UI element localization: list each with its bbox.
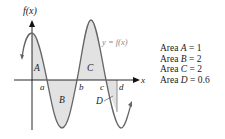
region-label-a: A [33, 63, 40, 73]
curve-label: y = f(x) [101, 37, 128, 47]
region-label-d: D [95, 96, 103, 106]
x-axis-arrow-icon [133, 77, 140, 83]
region-label-b: B [59, 95, 65, 105]
area-legend: Area A = 1 Area B = 2 Area C = 2 Area D … [160, 43, 210, 85]
legend-row-a: Area A = 1 [160, 43, 210, 54]
region-label-c: C [87, 63, 94, 73]
y-axis-arrow-icon [29, 20, 35, 27]
y-axis-label: f(x) [23, 5, 38, 17]
function-graph: f(x) x y = f(x) a b c d A B C D [0, 0, 150, 139]
tick-label-c: c [100, 82, 104, 92]
legend-row-c: Area C = 2 [160, 64, 210, 75]
x-axis-label: x [140, 75, 145, 85]
legend-row-b: Area B = 2 [160, 54, 210, 65]
legend-row-d: Area D = 0.6 [160, 75, 210, 86]
tick-label-d: d [119, 82, 124, 92]
curve-start-arrow-icon [20, 54, 24, 60]
tick-label-b: b [79, 82, 84, 92]
tick-label-a: a [40, 82, 45, 92]
